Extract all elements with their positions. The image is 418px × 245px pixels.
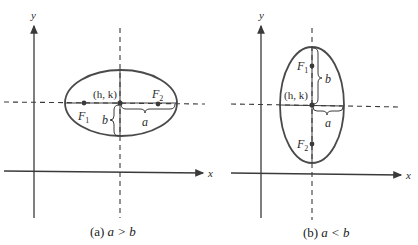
y-axis-label-b: y (258, 9, 264, 21)
focus-1-label-a: F1 (77, 109, 89, 125)
x-axis-label-b: x (405, 169, 411, 181)
focus-1-b (310, 64, 315, 69)
center-point-b (309, 102, 314, 107)
focus-1-label-b: F1 (296, 59, 308, 75)
caption-b: (b)a < b (303, 225, 350, 240)
ellipse-diagram: y x (h, k) F1 F2 b a (a)a > b y x (0, 0, 418, 245)
focus-2-b (310, 142, 315, 147)
center-label-b: (h, k) (284, 89, 308, 102)
focus-1-a (82, 101, 87, 106)
y-axis-label-a: y (30, 9, 36, 21)
brace-a-a (121, 104, 175, 113)
semi-major-label-b: b (325, 72, 331, 86)
caption-a: (a)a > b (90, 224, 136, 239)
semi-minor-label-b: a (325, 116, 331, 130)
brace-b-b (313, 48, 322, 104)
panel-b: y x F1 (h, k) F2 b a (b)a < b (231, 9, 411, 240)
focus-2-label-a: F2 (151, 87, 163, 103)
semi-minor-label-a: b (102, 113, 108, 127)
brace-a-b (313, 107, 343, 115)
semi-major-label-a: a (142, 115, 148, 129)
focus-2-label-b: F2 (296, 137, 308, 153)
x-axis-b (231, 173, 401, 175)
brace-b-a (110, 105, 119, 136)
panel-a: y x (h, k) F1 F2 b a (a)a > b (4, 9, 213, 239)
center-label-a: (h, k) (93, 88, 117, 101)
x-axis-label-a: x (207, 167, 213, 179)
